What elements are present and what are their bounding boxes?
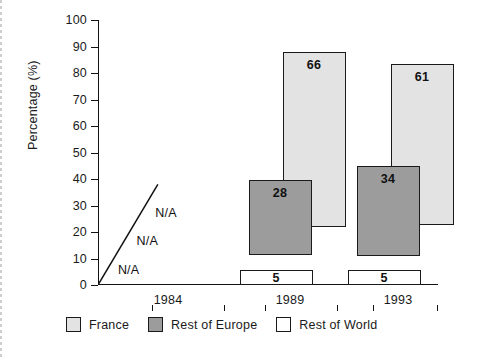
x-axis-category-label: 1993 bbox=[384, 293, 413, 307]
na-annotation: N/A bbox=[118, 263, 139, 277]
x-tick-mark bbox=[337, 305, 338, 311]
x-axis-category-label: 1989 bbox=[276, 293, 305, 307]
y-tick-mark bbox=[91, 285, 98, 286]
y-tick-label: 60 bbox=[73, 120, 87, 133]
bar-value-label: 61 bbox=[392, 70, 453, 84]
chart-legend: FranceRest of EuropeRest of World bbox=[66, 317, 396, 332]
plot-area: 0102030405060708090100 6661552834 N/AN/A… bbox=[98, 20, 438, 285]
y-tick-mark bbox=[91, 126, 98, 127]
bar-value-label: 5 bbox=[241, 271, 312, 285]
legend-label: Rest of Europe bbox=[171, 318, 257, 332]
bar[interactable]: 5 bbox=[348, 270, 421, 285]
y-tick-mark bbox=[91, 73, 98, 74]
x-tick-mark bbox=[224, 305, 225, 311]
x-axis-category-label: 1984 bbox=[154, 293, 183, 307]
y-tick-label: 100 bbox=[66, 14, 87, 27]
bar[interactable]: 28 bbox=[249, 180, 312, 254]
legend-swatch-icon bbox=[148, 317, 163, 332]
bar-value-label: 34 bbox=[358, 172, 419, 186]
legend-swatch-icon bbox=[276, 317, 291, 332]
y-tick-mark bbox=[91, 232, 98, 233]
bar-value-label: 66 bbox=[284, 58, 345, 72]
y-axis-title: Percentage (%) bbox=[26, 60, 40, 150]
na-annotation: N/A bbox=[137, 234, 158, 248]
legend-swatch-icon bbox=[66, 317, 81, 332]
y-tick-mark bbox=[91, 179, 98, 180]
y-tick-label: 50 bbox=[73, 146, 87, 159]
y-tick-label: 20 bbox=[73, 226, 87, 239]
bar[interactable]: 5 bbox=[240, 270, 313, 285]
legend-label: Rest of World bbox=[299, 318, 377, 332]
na-annotation: N/A bbox=[155, 206, 176, 220]
x-tick-mark bbox=[437, 305, 438, 311]
x-tick-mark bbox=[265, 305, 266, 311]
y-tick-mark bbox=[91, 206, 98, 207]
y-tick-label: 40 bbox=[73, 173, 87, 186]
y-tick-label: 90 bbox=[73, 40, 87, 53]
y-tick-label: 70 bbox=[73, 93, 87, 106]
x-tick-mark bbox=[373, 305, 374, 311]
chart-figure: Percentage (%) 0102030405060708090100 66… bbox=[0, 0, 486, 357]
y-tick-label: 80 bbox=[73, 67, 87, 80]
bar-value-label: 5 bbox=[349, 271, 420, 285]
y-tick-mark bbox=[91, 47, 98, 48]
legend-item[interactable]: Rest of World bbox=[276, 317, 377, 332]
y-tick-label: 0 bbox=[80, 279, 87, 292]
legend-item[interactable]: France bbox=[66, 317, 129, 332]
y-axis-line bbox=[98, 20, 99, 285]
y-tick-mark bbox=[91, 100, 98, 101]
y-tick-mark bbox=[91, 259, 98, 260]
y-tick-label: 30 bbox=[73, 199, 87, 212]
legend-item[interactable]: Rest of Europe bbox=[148, 317, 257, 332]
y-tick-label: 10 bbox=[73, 252, 87, 265]
page-edge-decoration bbox=[0, 0, 2, 357]
legend-label: France bbox=[89, 318, 129, 332]
bar-value-label: 28 bbox=[250, 186, 311, 200]
bar[interactable]: 34 bbox=[357, 166, 420, 256]
y-tick-mark bbox=[91, 153, 98, 154]
y-tick-mark bbox=[91, 20, 98, 21]
